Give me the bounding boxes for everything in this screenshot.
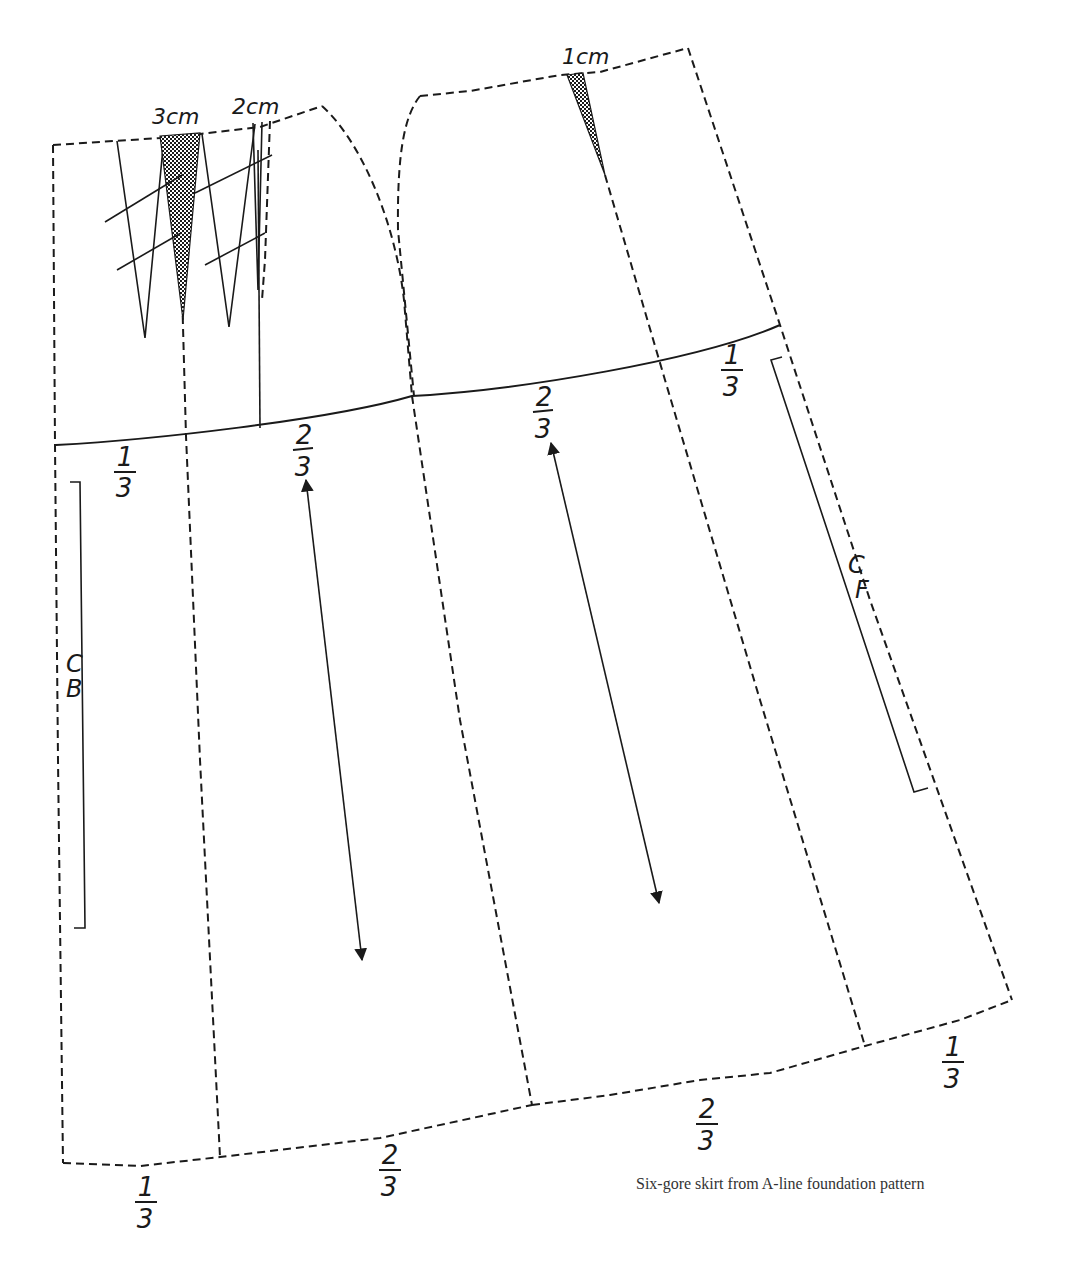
back-pattern-piece bbox=[53, 106, 532, 1166]
fraction-hem-back-mid: 2 3 bbox=[379, 1140, 401, 1202]
front-dart-1cm-shaded bbox=[567, 73, 605, 175]
svg-text:3: 3 bbox=[295, 452, 312, 482]
back-side-seam-lower bbox=[412, 396, 532, 1105]
svg-text:3: 3 bbox=[944, 1064, 961, 1094]
slash-line-2 bbox=[117, 233, 181, 270]
fraction-hip-back-mid: 2 3 bbox=[293, 420, 313, 482]
center-back-label-c: C bbox=[66, 650, 83, 678]
hip-line bbox=[56, 325, 780, 445]
back-dart-reference bbox=[262, 121, 270, 300]
front-hem bbox=[532, 1000, 1012, 1105]
center-front-label-c: C bbox=[848, 551, 865, 579]
back-dart-3cm-shaded bbox=[160, 133, 200, 320]
dart-label-1cm: 1cm bbox=[562, 44, 610, 69]
center-back-bracket bbox=[70, 482, 85, 928]
back-dart-2cm bbox=[253, 122, 262, 290]
front-pattern-piece bbox=[398, 48, 1012, 1105]
svg-text:1: 1 bbox=[945, 1032, 962, 1062]
svg-text:3: 3 bbox=[535, 414, 552, 444]
svg-text:2: 2 bbox=[382, 1140, 399, 1170]
svg-text:2: 2 bbox=[296, 420, 313, 450]
figure-caption: Six-gore skirt from A-line foundation pa… bbox=[636, 1175, 924, 1193]
back-dart-right bbox=[202, 124, 255, 327]
dart-label-2cm: 2cm bbox=[232, 94, 280, 119]
front-gore-division bbox=[605, 175, 865, 1046]
center-front-line bbox=[688, 48, 1012, 1000]
back-side-seam bbox=[322, 106, 412, 396]
svg-text:1: 1 bbox=[117, 442, 134, 472]
grainline-back bbox=[306, 480, 362, 960]
center-back-label-b: B bbox=[66, 675, 82, 703]
svg-text:3: 3 bbox=[116, 473, 133, 503]
svg-text:2: 2 bbox=[536, 382, 553, 412]
back-gore-division bbox=[182, 290, 220, 1157]
svg-text:3: 3 bbox=[723, 372, 740, 402]
grainline-front bbox=[551, 443, 659, 903]
svg-text:3: 3 bbox=[137, 1204, 154, 1234]
center-back-line bbox=[53, 145, 63, 1163]
svg-text:1: 1 bbox=[724, 340, 741, 370]
svg-text:2: 2 bbox=[699, 1094, 716, 1124]
svg-text:1: 1 bbox=[138, 1172, 155, 1202]
fraction-hip-back-left: 1 3 bbox=[114, 442, 136, 503]
svg-text:3: 3 bbox=[381, 1172, 398, 1202]
back-hem bbox=[63, 1105, 532, 1166]
fraction-hem-front-right: 1 3 bbox=[942, 1032, 964, 1094]
six-gore-skirt-diagram: 3cm 2cm 1cm C B C F 1 3 2 3 2 3 1 3 1 3 … bbox=[0, 0, 1077, 1263]
dart-label-3cm: 3cm bbox=[152, 104, 200, 129]
svg-text:3: 3 bbox=[698, 1126, 715, 1156]
fraction-hem-front-mid: 2 3 bbox=[696, 1094, 718, 1156]
back-dart-left bbox=[117, 137, 164, 338]
fraction-hip-front-right: 1 3 bbox=[721, 340, 743, 402]
center-front-label-f: F bbox=[855, 576, 870, 604]
front-waistline bbox=[420, 48, 688, 96]
fraction-hem-back-left: 1 3 bbox=[135, 1172, 157, 1234]
fraction-hip-front-mid: 2 3 bbox=[533, 382, 553, 444]
